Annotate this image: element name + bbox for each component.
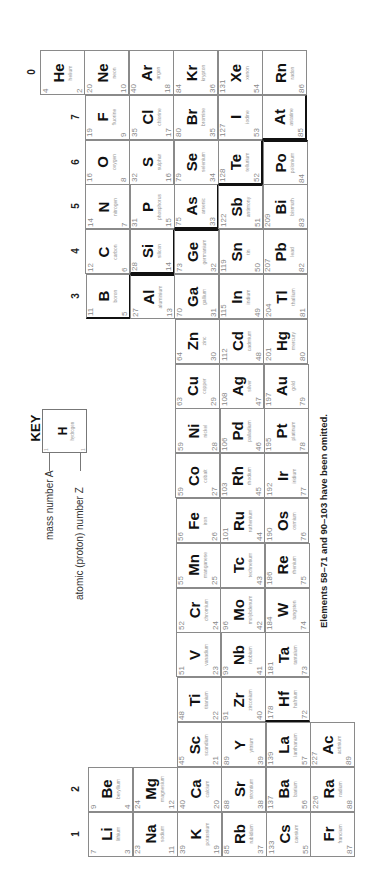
element-name: cobalt — [203, 454, 208, 498]
element-symbol: Ca — [188, 767, 203, 811]
element-mass-number: 31 — [131, 218, 139, 227]
element-atomic-number: 44 — [256, 532, 264, 541]
element-name: francium — [338, 812, 343, 856]
element-name: magnesium — [160, 767, 165, 811]
element-cell-co: 59Cocobalt27 — [175, 453, 220, 498]
element-atomic-number: 11 — [168, 846, 176, 854]
element-atomic-number: 31 — [210, 308, 218, 317]
element-atomic-number: 79 — [299, 397, 307, 406]
element-name: radon — [290, 51, 295, 95]
element-name: astatine — [289, 95, 294, 139]
element-cell-s: 32Ssulphur16 — [129, 140, 174, 185]
element-cell-he: 4Hehelium2 — [40, 50, 85, 95]
element-mass-number: 190 — [266, 527, 274, 540]
element-atomic-number: 6 — [121, 267, 129, 271]
element-cell-na: 23Nasodium11 — [133, 812, 178, 857]
element-cell-mn: 55Mnmanganese25 — [176, 543, 221, 588]
element-mass-number: 119 — [220, 259, 228, 272]
element-cell-ga: 70Gagallium31 — [174, 274, 219, 319]
element-cell-ba: 137Babarium56 — [266, 767, 311, 812]
element-symbol: P — [140, 185, 155, 229]
group-label: 4 — [66, 241, 86, 261]
element-mass-number: 59 — [177, 442, 185, 451]
element-atomic-number: 46 — [255, 442, 263, 451]
element-cell-cu: 63Cucopper29 — [175, 364, 220, 409]
element-cell-bi: 209Bibismuth83 — [263, 184, 308, 229]
element-symbol: Fr — [321, 812, 336, 856]
element-cell-p: 31Pphosphorus15 — [130, 184, 175, 229]
element-name: niobium — [248, 633, 253, 677]
element-symbol: Pt — [274, 409, 289, 453]
element-cell-li: 7Lilithium3 — [88, 812, 133, 857]
element-name: lanthanum — [293, 723, 298, 767]
element-atomic-number: 33 — [209, 217, 217, 226]
element-name: bromine — [201, 95, 206, 139]
element-name: iridium — [292, 454, 297, 498]
element-atomic-number: 36 — [209, 84, 217, 93]
element-symbol: Sb — [229, 185, 244, 229]
element-name: sulphur — [157, 140, 162, 184]
element-cell-rb: 85Rbrubidium37 — [222, 812, 267, 857]
element-cell-ni: 59Ninickel28 — [175, 408, 220, 453]
element-cell-br: 80Brbromine35 — [173, 95, 218, 140]
element-mass-number: 4 — [42, 88, 50, 92]
element-mass-number: 39 — [179, 845, 187, 854]
element-mass-number: 108 — [221, 393, 229, 406]
element-name: palladium — [247, 409, 252, 453]
element-name: arsenic — [201, 184, 206, 228]
element-atomic-number: 76 — [300, 532, 308, 541]
element-cell-re: 186Rerhenium75 — [265, 543, 310, 588]
element-name: neon — [112, 51, 117, 95]
element-atomic-number: 39 — [257, 756, 265, 765]
element-mass-number: 7 — [90, 850, 98, 854]
element-cell-sc: 45Scscandium21 — [177, 722, 222, 767]
element-name: polonium — [290, 141, 295, 185]
element-mass-number: 178 — [267, 706, 275, 719]
element-atomic-number: 14 — [165, 262, 173, 271]
element-cell-ca: 40Cacalcium20 — [177, 767, 222, 812]
group-label: 0 — [22, 62, 42, 82]
element-atomic-number: 41 — [256, 666, 264, 675]
element-symbol: Ti — [187, 678, 202, 722]
element-mass-number: 89 — [223, 756, 231, 765]
element-cell-w: 184Wtungsten74 — [265, 588, 310, 633]
element-atomic-number: 3 — [124, 850, 132, 854]
element-atomic-number: 38 — [257, 800, 265, 809]
group-label: 2 — [66, 779, 86, 799]
element-name: scandium — [204, 723, 209, 767]
element-atomic-number: 78 — [299, 442, 307, 451]
element-name: titanium — [204, 678, 209, 722]
element-mass-number: 195 — [265, 438, 273, 451]
element-cell-b: 11Bboron5 — [86, 274, 131, 319]
element-mass-number: 181 — [267, 662, 275, 675]
element-name: sodium — [160, 812, 165, 856]
element-cell-c: 12Ccarbon6 — [85, 229, 130, 274]
element-symbol: La — [276, 723, 291, 767]
element-atomic-number: 72 — [301, 710, 309, 719]
element-name: silver — [247, 364, 252, 408]
element-atomic-number: 35 — [209, 128, 217, 137]
element-atomic-number: 28 — [211, 442, 219, 451]
element-name: gallium — [202, 275, 207, 319]
element-cell-fr: Frfrancium87 — [310, 812, 355, 857]
element-atomic-number: 12 — [168, 800, 176, 809]
element-name: vanadium — [204, 633, 209, 677]
element-symbol: In — [229, 275, 244, 319]
element-cell-os: 190Ososmium76 — [264, 498, 309, 543]
element-symbol: Ta — [276, 633, 291, 677]
key-number: 1 — [81, 448, 86, 451]
element-atomic-number: 9 — [120, 133, 128, 137]
element-atomic-number: 87 — [346, 845, 354, 854]
element-mass-number: 55 — [177, 576, 185, 585]
element-name: gold — [291, 364, 296, 408]
element-name: aluminium — [158, 275, 163, 319]
element-mass-number: 85 — [223, 845, 231, 854]
element-symbol: Mn — [186, 543, 201, 587]
group-label: 6 — [66, 152, 86, 172]
element-atomic-number: 22 — [212, 711, 220, 720]
element-mass-number: 115 — [220, 304, 228, 317]
element-atomic-number: 30 — [210, 352, 218, 361]
element-name: oxygen — [112, 140, 117, 184]
element-cell-zn: 64Znzinc30 — [175, 319, 220, 364]
element-name: tungsten — [292, 588, 297, 632]
